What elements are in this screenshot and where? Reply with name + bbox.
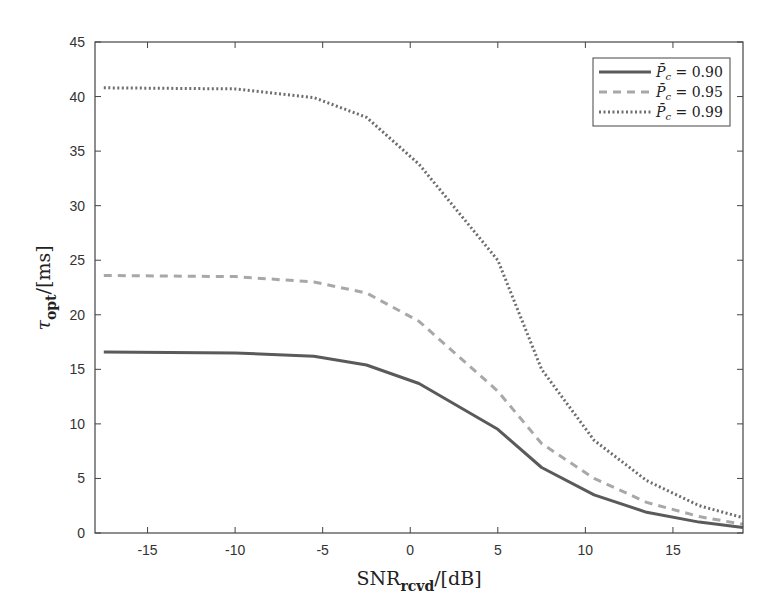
legend-label-090: P̄c = 0.90 — [655, 63, 723, 82]
x-tick-label: 15 — [665, 542, 681, 558]
x-tick-label: 0 — [406, 542, 414, 558]
y-tick-label: 35 — [69, 143, 85, 159]
series-line-dashed — [104, 276, 743, 525]
y-tick-label: 5 — [77, 470, 85, 486]
x-tick-label: -15 — [137, 542, 157, 558]
x-tick-label: -5 — [316, 542, 329, 558]
legend: P̄c = 0.90 P̄c = 0.95 P̄c = 0.99 — [593, 58, 730, 126]
y-tick-label: 25 — [69, 252, 85, 268]
y-tick-label: 15 — [69, 361, 85, 377]
y-tick-label: 40 — [69, 89, 85, 105]
y-tick-label: 20 — [69, 307, 85, 323]
x-tick-label: 5 — [494, 542, 502, 558]
series-line-dotted — [104, 88, 743, 518]
y-tick-label: 30 — [69, 198, 85, 214]
y-tick-label: 10 — [69, 416, 85, 432]
y-axis-label: τopt/[ms] — [32, 245, 59, 330]
x-axis-label: SNRrcvd/[dB] — [356, 567, 481, 594]
legend-label-099: P̄c = 0.99 — [655, 103, 723, 122]
y-tick-label: 45 — [69, 34, 85, 50]
line-chart: -15-10-5051015 051015202530354045 SNRrcv… — [0, 0, 779, 615]
y-tick-label: 0 — [77, 525, 85, 541]
x-tick-label: 10 — [578, 542, 594, 558]
legend-label-095: P̄c = 0.95 — [655, 83, 723, 102]
plot-lines — [104, 88, 743, 528]
x-tick-label: -10 — [225, 542, 245, 558]
